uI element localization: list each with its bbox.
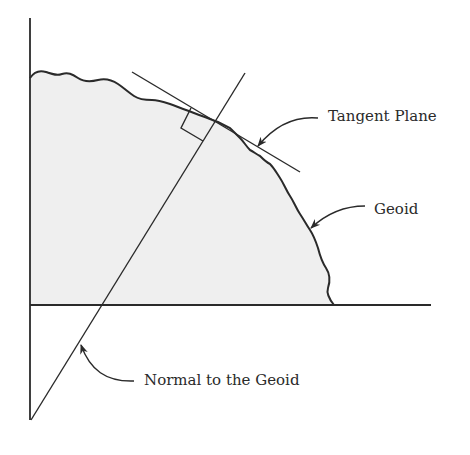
- geoid-label: Geoid: [374, 202, 418, 217]
- geoid-fill: [30, 71, 334, 305]
- geoid-arrow: [311, 206, 365, 228]
- tangent-plane-arrow: [258, 118, 318, 146]
- normal-arrow: [81, 345, 134, 381]
- tangent-plane-label: Tangent Plane: [328, 109, 437, 124]
- normal-label: Normal to the Geoid: [144, 373, 300, 388]
